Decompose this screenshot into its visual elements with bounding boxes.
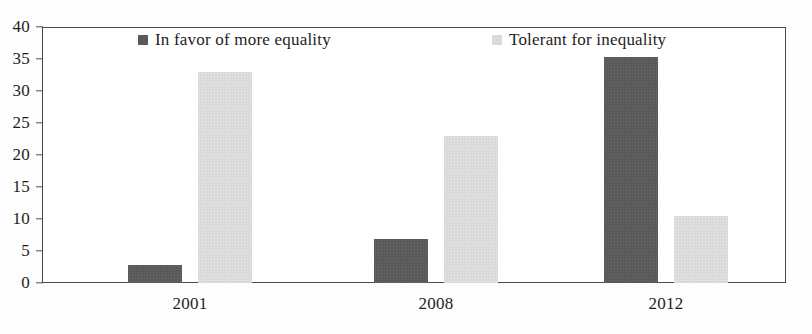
x-axis-tick-label-2012: 2012 <box>648 294 683 314</box>
bar-chart: 0510152025303540 200120082012 In favor o… <box>0 0 812 334</box>
x-axis-tick-label-2008: 2008 <box>418 294 453 314</box>
bar-2008-series-2 <box>444 136 498 283</box>
bars-layer <box>42 27 786 283</box>
legend-entry-2[interactable]: Tolerant for inequality <box>492 30 666 50</box>
y-axis-tick-label: 0 <box>21 273 30 293</box>
y-axis-tick-label: 40 <box>12 17 30 37</box>
y-axis-tick-label: 30 <box>12 81 30 101</box>
bar-2001-series-1 <box>128 265 182 283</box>
y-axis-tick-label: 20 <box>12 145 30 165</box>
chart-legend: In favor of more equalityTolerant for in… <box>42 30 786 56</box>
y-axis-tick-label: 5 <box>21 241 30 261</box>
legend-entry-1[interactable]: In favor of more equality <box>138 30 331 50</box>
x-axis-tick-label-2001: 2001 <box>172 294 207 314</box>
legend-label: Tolerant for inequality <box>509 30 666 50</box>
y-axis-tick-label: 15 <box>12 177 30 197</box>
bar-2012-series-1 <box>604 57 658 283</box>
legend-swatch-tolerant-for-inequality <box>492 35 502 45</box>
y-axis-tick-label: 25 <box>12 113 30 133</box>
x-axis: 200120082012 <box>42 288 786 328</box>
bar-2008-series-1 <box>374 239 428 283</box>
legend-label: In favor of more equality <box>155 30 331 50</box>
bar-2012-series-2 <box>674 216 728 283</box>
y-axis-tick-label: 10 <box>12 209 30 229</box>
y-axis-tick-label: 35 <box>12 49 30 69</box>
legend-swatch-in-favor-of-more-equality <box>138 35 148 45</box>
bar-2001-series-2 <box>198 72 252 283</box>
y-axis: 0510152025303540 <box>0 0 42 334</box>
